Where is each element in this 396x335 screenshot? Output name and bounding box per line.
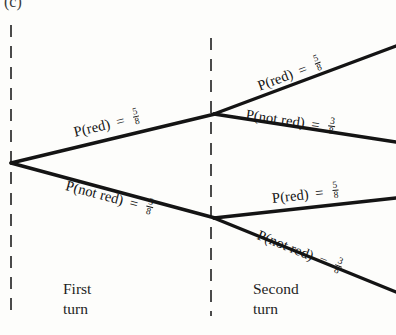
caption-first-turn-line1: First [63, 279, 91, 299]
label-second-turn-lower-red-event: P(red) [271, 186, 310, 207]
label-second-turn-lower-not-red-equals: = [316, 251, 330, 270]
branch-second-turn-upper-red [214, 46, 396, 114]
tree-diagram-canvas [0, 0, 396, 335]
caption-second-turn-line1: Second [253, 279, 299, 299]
label-first-turn-not-red-equals: = [128, 194, 140, 213]
caption-second-turn-line2: turn [253, 299, 299, 319]
figure-panel: (c) P(red) = 5 8 P(not red) = 3 8 P(red) [0, 0, 396, 335]
label-second-turn-lower-red-denominator: 8 [332, 190, 340, 201]
label-second-turn-upper-not-red-equals: = [310, 116, 321, 134]
caption-first-turn-line2: turn [63, 299, 91, 319]
label-first-turn-red-equals: = [114, 112, 126, 130]
caption-first-turn: First turn [63, 279, 91, 319]
label-second-turn-upper-red-equals: = [296, 60, 310, 79]
label-second-turn-lower-red-equals: = [314, 184, 324, 202]
label-second-turn-lower-red-numerator: 5 [331, 180, 339, 190]
caption-second-turn: Second turn [253, 279, 299, 319]
